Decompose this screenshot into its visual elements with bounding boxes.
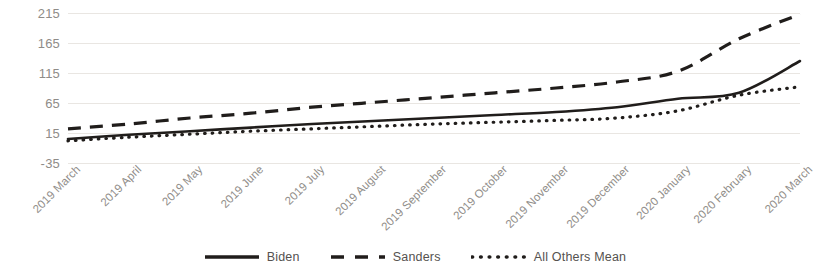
x-axis-tick-label: 2019 December [564, 163, 631, 230]
series-container [68, 13, 800, 163]
series-line-sanders [68, 14, 800, 129]
x-axis-tick-label: 2019 October [451, 163, 510, 222]
y-axis-tick-label: 215 [38, 6, 60, 21]
legend-label: All Others Mean [534, 250, 627, 264]
legend-label: Biden [267, 250, 300, 264]
chart-legend: BidenSandersAll Others Mean [0, 246, 830, 268]
legend-item[interactable]: Sanders [330, 250, 441, 264]
x-axis-tick-label: 2019 November [503, 163, 570, 230]
dotted-line-swatch [471, 252, 527, 262]
x-axis-tick-label: 2019 May [160, 163, 205, 208]
x-axis-tick-label: 2019 June [218, 163, 265, 210]
y-axis-tick-label: 15 [45, 126, 60, 141]
x-axis-tick-label: 2019 March [30, 163, 82, 215]
y-axis-tick-label: 65 [45, 96, 60, 111]
plot-area [68, 13, 800, 163]
legend-label: Sanders [393, 250, 441, 264]
x-axis-tick-label: 2019 September [379, 163, 449, 233]
y-axis-tick-label: 165 [38, 36, 60, 51]
y-axis-tick-label: 115 [39, 66, 60, 81]
dashed-line-swatch [330, 252, 386, 262]
x-axis-tick-label: 2020 January [634, 163, 693, 222]
y-axis: 2151651156515-35 [0, 0, 60, 176]
legend-item[interactable]: All Others Mean [471, 250, 627, 264]
x-axis: 2019 March2019 April2019 May2019 June201… [0, 163, 830, 233]
solid-line-swatch [204, 252, 260, 262]
x-axis-tick-label: 2019 April [98, 163, 143, 208]
x-axis-tick-label: 2019 August [333, 163, 387, 217]
x-axis-tick-label: 2020 March [762, 163, 814, 215]
x-axis-tick-label: 2020 February [691, 163, 753, 225]
series-line-biden [68, 61, 800, 139]
x-axis-tick-label: 2019 July [283, 163, 327, 207]
legend-item[interactable]: Biden [204, 250, 300, 264]
line-chart: 2151651156515-35 2019 March2019 April201… [0, 0, 830, 272]
